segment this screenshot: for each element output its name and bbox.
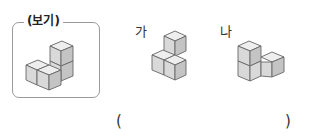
option-na-cube-figure bbox=[236, 40, 296, 90]
answer-open-paren: ( bbox=[116, 112, 122, 130]
answer-close-paren: ) bbox=[285, 112, 291, 130]
example-cube-figure bbox=[22, 38, 92, 93]
example-title: (보기) bbox=[24, 13, 63, 29]
option-label-na: 나 bbox=[220, 24, 232, 40]
option-ga-cube-figure bbox=[150, 30, 200, 85]
option-label-ga: 가 bbox=[135, 24, 147, 40]
